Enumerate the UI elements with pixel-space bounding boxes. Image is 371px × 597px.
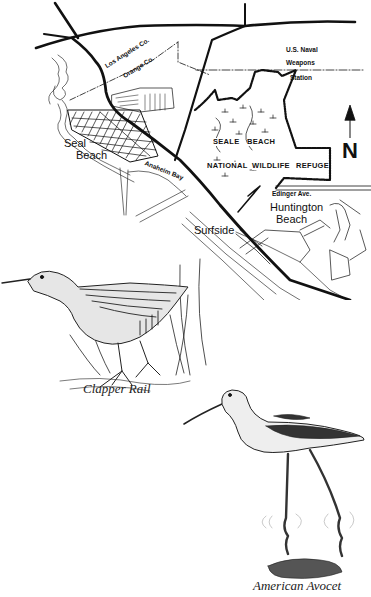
huntington-beach-label-1: Huntington — [270, 202, 323, 213]
seal-beach-label-1: Seal — [64, 138, 86, 149]
refuge-label-refuge: REFUGE — [296, 162, 329, 170]
refuge-label-beach: BEACH — [247, 138, 275, 146]
american-avocet-illustration: American Avocet — [180, 388, 371, 597]
naval-label-2: Weapons — [286, 60, 315, 67]
clapper-rail-caption: Clapper Rail — [83, 381, 151, 397]
american-avocet-drawing — [180, 388, 371, 597]
refuge-label-wildlife: WILDLIFE — [252, 162, 290, 170]
north-arrow-icon: N — [341, 138, 359, 164]
document-page: Los Angeles Co. Orange Co. U.S. Naval We… — [0, 0, 371, 597]
naval-label-3: Station — [290, 75, 312, 82]
surfside-label: Surfside — [194, 225, 234, 236]
refuge-label-national: NATIONAL — [207, 162, 248, 170]
naval-label-1: U.S. Naval — [286, 47, 318, 54]
clapper-rail-illustration: Clapper Rail — [0, 255, 220, 405]
refuge-label-seale: SEALE — [213, 138, 240, 146]
american-avocet-caption: American Avocet — [253, 578, 341, 594]
seal-beach-label-2: Beach — [76, 150, 107, 161]
huntington-beach-label-2: Beach — [276, 214, 307, 225]
edinger-ave-label: Edinger Ave. — [272, 191, 311, 198]
